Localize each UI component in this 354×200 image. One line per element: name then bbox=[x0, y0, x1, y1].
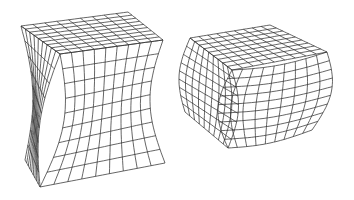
deformed-cubes-diagram bbox=[0, 0, 354, 200]
pincushion-cube-mesh bbox=[21, 12, 165, 187]
barrel-cube-mesh bbox=[179, 25, 333, 148]
figure-canvas bbox=[0, 0, 354, 200]
